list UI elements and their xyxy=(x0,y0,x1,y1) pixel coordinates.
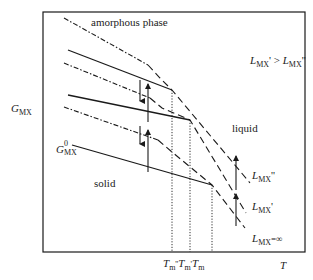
g0-sup: 0 xyxy=(64,140,68,148)
g0-main: G xyxy=(56,143,64,155)
tm-labels: Tm''Tm'Tm xyxy=(163,258,204,272)
relation-op: > xyxy=(271,54,283,66)
lmx-double-prime-label: LMX'' xyxy=(252,170,275,184)
solid-line-g0 xyxy=(72,145,212,185)
lmx-inf-sub: MX xyxy=(258,238,271,247)
tm-sub: m xyxy=(198,263,204,272)
lmx-p-suffix: ' xyxy=(271,200,273,212)
g0-sub: MX xyxy=(64,149,77,157)
lmx-infinite-label: LMX=∞ xyxy=(252,233,283,247)
y-axis-main: G xyxy=(11,102,19,114)
relation-rhs-prime: '' xyxy=(302,54,306,66)
lmx-dp-sub: MX xyxy=(258,175,271,184)
amorphous-phase-label: amorphous phase xyxy=(91,17,168,28)
lmx-prime-label: LMX' xyxy=(252,201,273,215)
y-axis-sub: MX xyxy=(19,108,32,117)
relation-lhs-sub: MX xyxy=(256,60,269,69)
liquid-line-lmx-infinite xyxy=(158,140,245,228)
amorphous-line-2 xyxy=(64,107,158,140)
lmx-inf-suffix: =∞ xyxy=(271,234,283,244)
plot-frame xyxy=(43,12,305,252)
lmx-p-sub: MX xyxy=(258,206,271,215)
y-axis-label: GMX xyxy=(11,103,32,117)
g0-label: G0MX xyxy=(56,143,82,155)
solid-label: solid xyxy=(94,178,115,189)
lmx-dp-suffix: '' xyxy=(271,169,275,181)
relation-label: LMX' > LMX'' xyxy=(250,55,306,69)
x-axis-label: T xyxy=(280,260,286,271)
relation-rhs-sub: MX xyxy=(289,60,302,69)
amorphous-line-1 xyxy=(64,63,150,98)
solid-line-1 xyxy=(68,50,172,90)
liquid-label: liquid xyxy=(232,123,258,134)
